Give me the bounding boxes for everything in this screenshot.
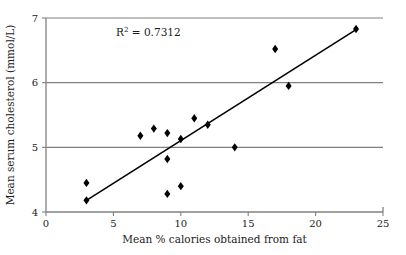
x-tick-label-20: 20	[309, 218, 322, 229]
annotation-r-squared: R2 = 0.7312	[116, 26, 181, 38]
x-tick-label-25: 25	[377, 218, 390, 229]
y-axis-ticks: 4567	[32, 13, 46, 218]
data-point	[164, 155, 170, 163]
data-point	[178, 182, 184, 190]
x-axis-title: Mean % calories obtained from fat	[122, 233, 307, 245]
data-point	[232, 143, 238, 151]
y-tick-label-7: 7	[32, 13, 38, 24]
x-axis-ticks: 0510152025	[43, 212, 390, 229]
data-point	[151, 124, 157, 132]
y-axis-title: Mean serum cholesterol (mmol/L)	[4, 25, 16, 206]
data-point	[272, 45, 278, 53]
x-tick-label-5: 5	[110, 218, 116, 229]
y-tick-label-5: 5	[32, 142, 38, 153]
axes	[46, 18, 383, 212]
trendline	[86, 30, 356, 201]
x-tick-label-10: 10	[174, 218, 187, 229]
x-tick-label-15: 15	[242, 218, 255, 229]
data-point	[83, 196, 89, 204]
data-point	[191, 114, 197, 122]
gridlines	[46, 18, 383, 147]
x-tick-label-0: 0	[43, 218, 49, 229]
data-point	[137, 131, 143, 139]
y-tick-label-6: 6	[32, 77, 38, 88]
data-point	[164, 129, 170, 137]
data-point	[83, 179, 89, 187]
scatter-chart: 05101520254567R2 = 0.7312Mean % calories…	[0, 0, 406, 255]
data-point	[164, 190, 170, 198]
chart-canvas: 05101520254567R2 = 0.7312Mean % calories…	[0, 0, 406, 255]
data-point	[353, 25, 359, 33]
y-tick-label-4: 4	[32, 207, 38, 218]
